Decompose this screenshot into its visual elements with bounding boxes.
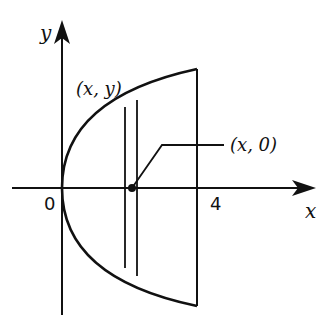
- tick-4-label: 4: [210, 193, 221, 214]
- y-axis-label: y: [39, 21, 52, 45]
- origin-label: 0: [44, 193, 55, 214]
- axis-point-label: (x, 0): [230, 134, 277, 155]
- x-axis-label: x: [305, 199, 316, 223]
- leader-line: [132, 145, 224, 188]
- curve-point-label: (x, y): [76, 78, 122, 99]
- parabola-region-diagram: y x 0 4 (x, y) (x, 0): [0, 0, 322, 315]
